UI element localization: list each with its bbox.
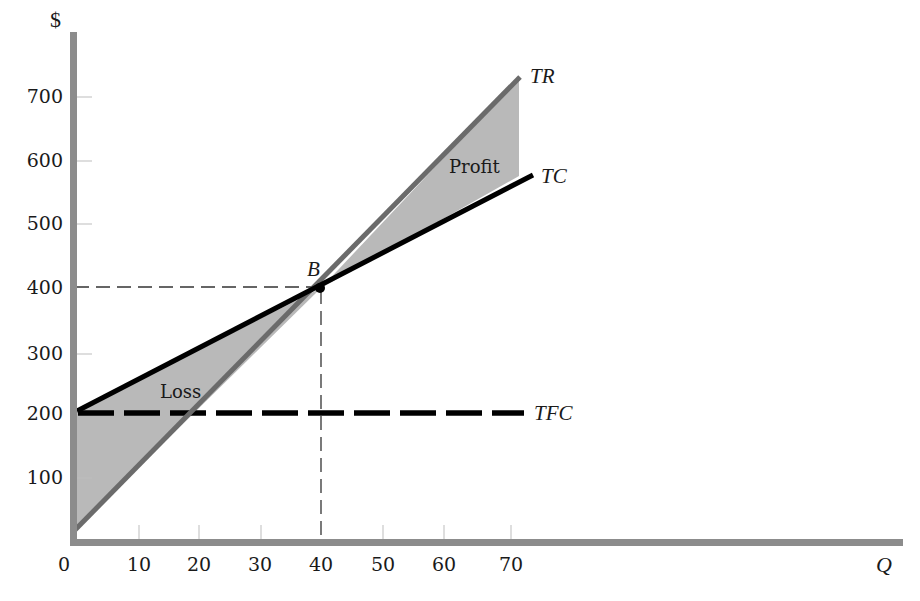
svg-text:50: 50 — [371, 553, 395, 575]
svg-text:700: 700 — [27, 85, 63, 107]
y-tick-labels: 700 600 500 400 300 200 100 — [27, 85, 63, 488]
tfc-label: TFC — [534, 401, 574, 425]
break-even-label: B — [307, 257, 320, 281]
tr-line — [75, 77, 520, 530]
svg-text:400: 400 — [27, 276, 63, 298]
svg-text:0: 0 — [58, 553, 70, 575]
svg-text:40: 40 — [309, 553, 333, 575]
y-axis — [70, 32, 77, 546]
svg-text:200: 200 — [27, 402, 63, 424]
svg-text:600: 600 — [27, 149, 63, 171]
x-axis-symbol: Q — [876, 552, 892, 577]
svg-text:100: 100 — [27, 466, 63, 488]
break-even-chart: $ Q 700 600 500 400 300 200 100 0 10 20 … — [0, 0, 920, 601]
x-ticks — [139, 525, 511, 539]
svg-text:70: 70 — [499, 553, 523, 575]
svg-text:60: 60 — [432, 553, 456, 575]
svg-text:10: 10 — [127, 553, 151, 575]
tr-label: TR — [530, 64, 555, 88]
x-axis — [70, 539, 903, 546]
svg-text:500: 500 — [27, 212, 63, 234]
tc-line — [77, 175, 533, 411]
tc-label: TC — [541, 164, 568, 188]
svg-text:20: 20 — [187, 553, 211, 575]
y-axis-symbol: $ — [50, 7, 61, 32]
svg-text:300: 300 — [27, 342, 63, 364]
svg-text:30: 30 — [248, 553, 272, 575]
break-even-point — [315, 283, 325, 293]
loss-label: Loss — [160, 381, 201, 402]
x-tick-labels: 0 10 20 30 40 50 60 70 — [58, 553, 523, 575]
profit-label: Profit — [449, 156, 501, 177]
